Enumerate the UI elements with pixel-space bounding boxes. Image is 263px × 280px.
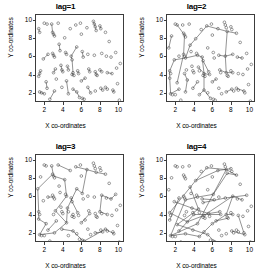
y-axis-ticks: 246810 (16, 154, 36, 242)
link-segment (84, 229, 105, 241)
x-tick-label: 10 (110, 106, 126, 113)
data-point (181, 165, 184, 168)
data-point (220, 92, 223, 95)
data-point (232, 231, 235, 234)
y-tick-label: 2 (18, 89, 32, 96)
link-segment (169, 36, 172, 48)
data-point (116, 224, 119, 227)
panel-title: lag=1 (0, 2, 131, 12)
link-segment (225, 31, 227, 56)
data-point (43, 92, 46, 95)
x-tick-label: 4 (55, 106, 71, 113)
data-point (191, 65, 194, 68)
x-tick-mark (231, 102, 232, 105)
x-tick-label: 8 (92, 246, 108, 253)
plot-panel-lag4: lag=4 Y co-ordinates 246810 246810 X co-… (131, 140, 262, 280)
data-point (198, 211, 201, 214)
y-tick-label: 6 (18, 192, 32, 199)
x-tick-label: 2 (36, 106, 52, 113)
data-point (78, 238, 81, 241)
y-tick-mark (33, 160, 36, 161)
link-segment (107, 73, 112, 74)
x-axis-label: X co-ordinates (0, 262, 131, 269)
y-tick-mark (164, 93, 167, 94)
data-point (174, 235, 177, 238)
data-point (206, 188, 209, 191)
data-point (168, 219, 171, 222)
link-segment (100, 195, 102, 212)
data-point (115, 67, 118, 70)
y-tick-label: 8 (18, 34, 32, 41)
data-point (247, 225, 250, 228)
data-point (119, 62, 122, 65)
x-tick-mark (194, 102, 195, 105)
data-point (211, 176, 214, 179)
y-tick-mark (33, 215, 36, 216)
link-segment (67, 81, 69, 94)
data-point (111, 214, 114, 217)
plot-panel-lag2: lag=2 Y co-ordinates 246810 246810 X co-… (131, 0, 262, 140)
y-tick-mark (164, 38, 167, 39)
x-tick-label: 2 (167, 246, 183, 253)
link-segment (185, 55, 197, 58)
y-axis-label: Y co-ordinates (138, 142, 145, 214)
data-point (178, 197, 181, 200)
link-segment (202, 199, 214, 200)
x-tick-label: 10 (241, 106, 257, 113)
link-segment (95, 27, 96, 31)
data-point (185, 210, 188, 213)
y-tick-label: 4 (18, 71, 32, 78)
panel-title: lag=2 (131, 2, 262, 12)
data-point (105, 55, 108, 58)
data-point (43, 234, 46, 237)
x-tick-mark (194, 242, 195, 245)
data-point (52, 213, 55, 216)
data-point (110, 198, 113, 201)
link-segment (82, 170, 87, 194)
data-point (174, 93, 177, 96)
data-point (232, 90, 235, 93)
x-tick-mark (249, 242, 250, 245)
figure-root: lag=1 Y co-ordinates 246810 246810 X co-… (0, 0, 263, 280)
x-tick-label: 4 (186, 106, 202, 113)
data-point (190, 50, 193, 53)
scatter-canvas (166, 14, 255, 102)
y-tick-mark (164, 233, 167, 234)
x-axis-label: X co-ordinates (0, 122, 131, 129)
data-point (246, 68, 249, 71)
y-tick-mark (164, 215, 167, 216)
x-tick-mark (63, 242, 64, 245)
x-tick-mark (175, 242, 176, 245)
y-axis-ticks: 246810 (16, 14, 36, 102)
x-axis-ticks: 246810 (166, 242, 255, 258)
x-axis-label: X co-ordinates (131, 122, 262, 129)
data-point (69, 27, 72, 30)
x-tick-label: 4 (55, 246, 71, 253)
link-segment (207, 168, 226, 170)
data-point (61, 86, 64, 89)
data-point (230, 28, 233, 31)
y-tick-mark (33, 75, 36, 76)
link-segment (38, 174, 53, 189)
plot-panel-lag3: lag=3 Y co-ordinates 246810 246810 X co-… (0, 140, 131, 280)
data-point (93, 196, 96, 199)
data-point (115, 209, 118, 212)
x-tick-label: 8 (223, 106, 239, 113)
data-point (80, 175, 83, 178)
data-point (80, 33, 83, 36)
x-axis-label: X co-ordinates (131, 262, 262, 269)
data-point (55, 78, 58, 81)
link-segment (54, 223, 66, 233)
data-point (116, 82, 119, 85)
link-segment (199, 224, 212, 237)
data-point (119, 204, 122, 207)
y-tick-label: 10 (149, 156, 163, 163)
link-segment (207, 26, 227, 32)
x-axis-ticks: 246810 (35, 102, 124, 118)
link-segment (111, 194, 116, 199)
data-point (198, 69, 201, 72)
data-point (89, 91, 92, 94)
data-point (237, 72, 240, 75)
data-point (212, 51, 215, 54)
data-point (59, 191, 62, 194)
